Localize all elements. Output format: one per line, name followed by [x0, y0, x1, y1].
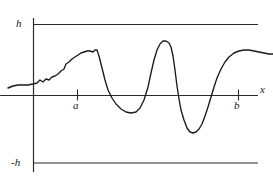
- function-graph-figure: h -h a b x: [0, 0, 273, 181]
- lower-bound-label: -h: [11, 157, 20, 168]
- x-axis-label: x: [260, 84, 265, 95]
- function-curve: [8, 41, 273, 133]
- interval-end-label: b: [234, 100, 240, 111]
- interval-start-label: a: [73, 100, 79, 111]
- upper-bound-label: h: [16, 18, 22, 29]
- graph-canvas: [0, 0, 273, 181]
